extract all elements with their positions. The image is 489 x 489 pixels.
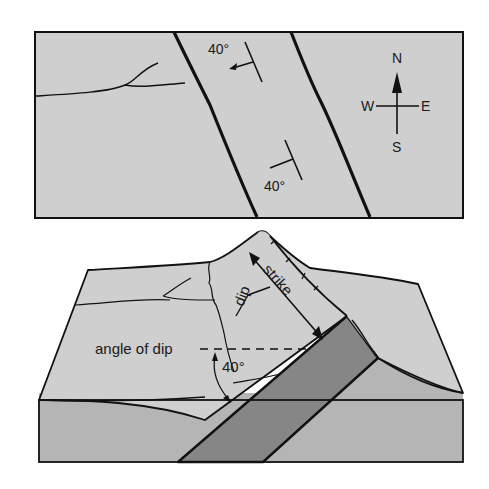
strike-dip-figure: 40° 40° N S W E <box>0 0 489 489</box>
dip-angle-label: 40° <box>264 178 285 194</box>
block-diagram: strike dip angle of dip 40° <box>39 231 463 462</box>
compass-north: N <box>392 50 402 66</box>
compass-south: S <box>392 139 401 155</box>
angle-of-dip-label: angle of dip <box>95 340 173 357</box>
map-view: 40° 40° N S W E <box>35 32 463 218</box>
angle-value-label: 40° <box>222 358 245 375</box>
compass-east: E <box>421 98 430 114</box>
compass-west: W <box>361 98 375 114</box>
dip-angle-label: 40° <box>208 41 229 57</box>
